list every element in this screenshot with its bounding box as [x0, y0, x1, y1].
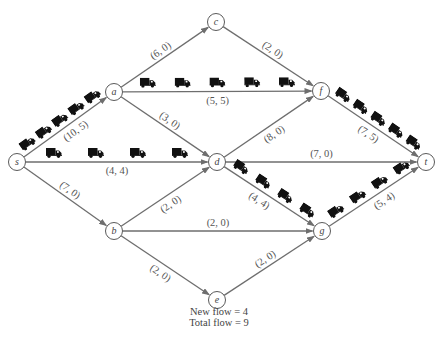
edge-label-b-g: (2, 0): [207, 217, 230, 229]
truck-icon: [140, 78, 156, 88]
truck-icon: [279, 77, 295, 87]
truck-icon: [46, 148, 62, 158]
flow-network-diagram: (10, 5)(4, 4)(7, 0)(6, 0)(5, 5)(3, 0)(2,…: [0, 0, 444, 343]
truck-icon: [88, 148, 104, 158]
edge-label-s-a: (10, 5): [61, 118, 91, 144]
node-a: a: [106, 84, 123, 101]
node-label: g: [320, 225, 325, 236]
new-flow-text: New flow = 4: [0, 306, 444, 317]
edge-s-b: [24, 167, 106, 226]
edge-b-d: [121, 167, 209, 226]
truck-icon: [172, 148, 188, 158]
node-s: s: [9, 154, 26, 171]
edge-label-s-d: (4, 4): [106, 165, 129, 177]
node-c: c: [208, 14, 225, 31]
edge-label-d-f: (8, 0): [262, 123, 288, 146]
edge-e-g: [224, 236, 314, 295]
edge-label-c-f: (2, 0): [260, 39, 286, 62]
node-label: t: [425, 156, 428, 167]
flow-summary: New flow = 4 Total flow = 9: [0, 306, 444, 328]
truck-icon: [175, 78, 191, 88]
node-t: t: [418, 154, 435, 171]
edge-label-d-g: (4, 4): [246, 190, 272, 213]
truck-icon: [130, 148, 146, 158]
edge-a-f: [122, 91, 311, 92]
edge-label-a-f: (5, 5): [206, 95, 229, 107]
node-label: a: [112, 86, 117, 97]
node-d: d: [209, 154, 226, 171]
edge-label-d-t: (7, 0): [310, 148, 333, 160]
edge-label-b-e: (2, 0): [147, 262, 173, 285]
truck-icon: [209, 77, 225, 87]
edge-label-a-d: (3, 0): [157, 109, 183, 132]
edge-d-g: [224, 167, 314, 226]
node-b: b: [106, 223, 123, 240]
edge-label-b-d: (2, 0): [158, 193, 184, 216]
node-g: g: [314, 223, 331, 240]
edge-label-a-c: (6, 0): [148, 39, 174, 62]
node-label: e: [215, 294, 220, 305]
edge-label-e-g: (2, 0): [253, 248, 279, 271]
edge-a-c: [121, 27, 208, 87]
node-f: f: [313, 83, 330, 100]
edge-a-d: [121, 97, 209, 157]
edge-label-f-t: (7, 5): [355, 123, 381, 146]
edge-g-t: [329, 167, 418, 226]
edge-f-t: [328, 96, 418, 157]
edge-d-f: [224, 96, 313, 157]
edge-label-g-t: (5, 4): [372, 189, 398, 212]
node-label: b: [112, 225, 117, 236]
node-label: c: [214, 16, 219, 27]
edge-c-f: [223, 27, 313, 86]
edge-label-s-b: (7, 0): [57, 179, 83, 202]
edge-b-e: [121, 236, 209, 295]
truck-icon: [244, 77, 260, 87]
total-flow-text: Total flow = 9: [0, 317, 444, 328]
node-label: s: [15, 156, 19, 167]
